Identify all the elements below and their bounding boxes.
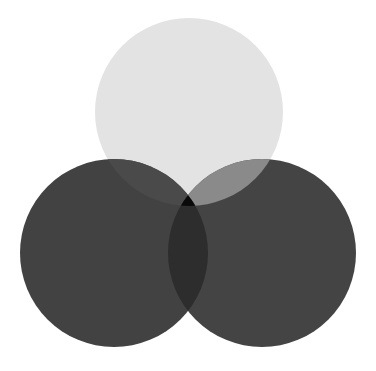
venn-diagram-svg (0, 0, 376, 371)
venn-diagram-canvas (0, 0, 376, 371)
